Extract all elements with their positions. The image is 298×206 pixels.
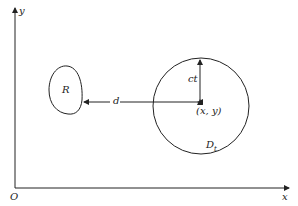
center-point [199, 101, 202, 104]
y-axis-label: y [19, 6, 25, 16]
disk-label: Dt [206, 140, 217, 153]
radius-label: ct [188, 74, 198, 84]
center-label: (x, y) [196, 106, 221, 116]
diagram-canvas [0, 0, 298, 206]
origin-label: O [10, 192, 18, 202]
distance-label: d [113, 96, 119, 106]
region-label: R [62, 85, 70, 95]
disk-label-subscript: t [214, 145, 217, 153]
x-axis-label: x [282, 192, 288, 202]
disk-label-main: D [206, 139, 214, 150]
